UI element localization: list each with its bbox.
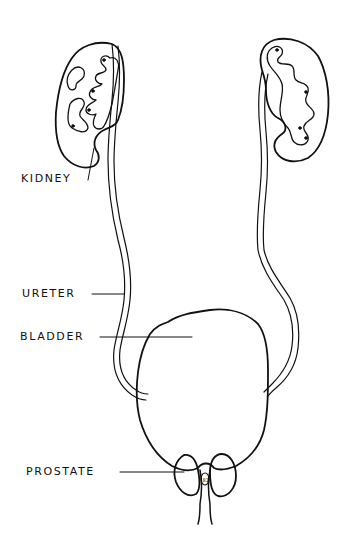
leader-lines [88,148,192,472]
right-kidney [261,39,329,162]
right-ureter [257,72,299,396]
bladder [137,310,268,471]
prostate-label: PROSTATE [26,465,95,478]
prostate: 81 [174,454,236,524]
bladder-label: BLADDER [20,330,84,343]
svg-text:81: 81 [203,477,209,483]
kidney-leader-line [88,148,94,180]
ureter-label: URETER [22,287,76,300]
urinary-system-diagram: 81 KIDNEY URETER BLADDER PROSTATE [0,0,346,549]
kidney-label: KIDNEY [21,172,71,185]
left-ureter [108,44,148,400]
